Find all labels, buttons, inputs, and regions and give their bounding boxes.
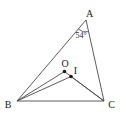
point-label-i: I: [74, 65, 77, 76]
segment-bo: [17, 72, 65, 102]
point-o-dot: [63, 70, 67, 74]
vertex-label-c: C: [108, 99, 115, 110]
side-ac: [86, 20, 104, 101]
triangle-figure: A B C O I 54°: [0, 0, 126, 120]
point-i-dot: [69, 75, 73, 79]
point-label-o: O: [61, 58, 68, 69]
vertex-label-b: B: [5, 99, 12, 110]
segment-bi: [17, 77, 71, 102]
vertex-label-a: A: [86, 8, 94, 19]
angle-label-54: 54°: [75, 31, 86, 40]
geometry-diagram: A B C O I 54°: [0, 0, 126, 120]
